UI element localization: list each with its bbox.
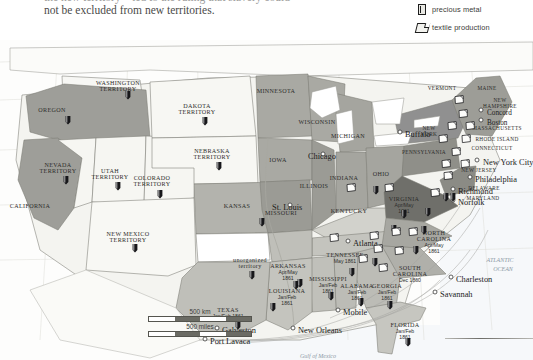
intro-line-1: the new territory—led to the ruling that…: [44, 0, 344, 4]
manufacturing-city-icon: [449, 275, 453, 279]
city-label: Charleston: [456, 275, 493, 284]
state-label: DAKOTATERRITORY: [179, 103, 216, 115]
seceded-state-name: VIRGINIA: [389, 196, 420, 202]
city-label: New Orleans: [298, 326, 342, 335]
city-label: Chicago: [308, 152, 336, 161]
state-label: MICHIGAN: [331, 133, 365, 139]
seceded-state-name: ALABAMA: [340, 283, 374, 289]
textile-production-icon: [392, 228, 400, 236]
state-label: ILLINOIS: [300, 183, 329, 189]
state-label: KANSAS: [224, 203, 251, 209]
manufacturing-city-icon: [451, 187, 455, 191]
textile-production-icon: [455, 96, 463, 104]
seceded-state-name: TENNESSEE: [326, 252, 363, 258]
textile-production-icon: [442, 160, 450, 168]
state-label: CONNECTICUT: [471, 145, 513, 151]
canada: [10, 42, 533, 76]
precious-metal-icon: [412, 4, 432, 15]
scale-bar-miles: [148, 331, 252, 337]
state-label: NEW MEXICOTERRITORY: [107, 231, 150, 243]
intro-line-2: not be excluded from new territories.: [44, 4, 344, 17]
seceded-state-name: ARKANSAS: [270, 263, 306, 269]
state-label: IOWA: [269, 157, 287, 163]
manufacturing-city-icon: [398, 130, 402, 134]
legend-label-precious-metal: precious metal: [432, 5, 481, 14]
scale-bar: 500 km 500 miles: [148, 308, 252, 338]
legend-item-precious-metal: precious metal: [412, 2, 532, 17]
scale-km-label: 500 km: [148, 308, 252, 315]
seceded-state-name: FLORIDA: [391, 322, 420, 328]
manufacturing-city-icon: [479, 118, 483, 122]
manufacturing-city-icon: [468, 175, 472, 179]
seceded-state-name: MISSISSIPPI: [309, 276, 347, 282]
city-label: Boston: [487, 119, 508, 127]
textile-production-icon: [466, 122, 474, 130]
seceded-state-date: May 1861: [334, 258, 357, 264]
city-label: New York City: [483, 158, 533, 167]
textile-production-icon: [379, 264, 387, 272]
manufacturing-city-icon: [479, 108, 483, 112]
intro-paragraph: the new territory—led to the ruling that…: [44, 0, 344, 17]
manufacturing-city-icon: [433, 290, 437, 294]
textile-production-icon: [452, 148, 460, 156]
textile-production-icon: [461, 160, 469, 168]
city-label: Richmond: [458, 187, 494, 196]
state-label: RHODE ISLAND: [475, 136, 518, 142]
scale-miles-label: 500 miles: [148, 323, 252, 330]
textile-production-icon: [330, 234, 338, 242]
textile-production-icon: [462, 135, 470, 143]
city-label: Buffalo: [405, 130, 430, 139]
textile-production-icon: [370, 232, 378, 240]
textile-production-icon: [347, 184, 355, 192]
lake-huron: [372, 98, 404, 124]
ocean-label: OCEAN: [493, 266, 514, 272]
ocean-label: Gulf of Mexico: [300, 353, 336, 359]
state-label: NEW JERSEY: [461, 167, 497, 173]
textile-production-icon: [459, 110, 467, 118]
state-label: OHIO: [373, 171, 390, 177]
indiana-area: [336, 152, 368, 212]
textile-production-icon: [431, 189, 439, 197]
state-label: NEVADATERRITORY: [40, 162, 77, 174]
state-label: PENNSYLVANIA: [402, 149, 446, 155]
seceded-state-name: LOUISIANA: [269, 288, 306, 294]
state-label: WISCONSIN: [298, 119, 335, 125]
textile-production-icon: [444, 172, 452, 180]
state-label: OREGON: [38, 107, 66, 113]
legend-item-textile-production: textile production: [412, 20, 532, 35]
state-label: VERMONT: [428, 85, 457, 91]
state-label: MINNESOTA: [257, 88, 296, 94]
state-label: KENTUCKY: [331, 208, 368, 214]
state-label: CALIFORNIA: [10, 203, 51, 209]
ocean-label: ATLANTIC: [485, 257, 514, 263]
textile-production-icon: [374, 245, 382, 253]
state-label: COLORADOTERRITORY: [134, 175, 171, 187]
textile-production-icon: [359, 255, 367, 263]
manufacturing-city-icon: [291, 326, 295, 330]
civil-war-map: WASHINGTONTERRITORYOREGONNEVADATERRITORY…: [0, 40, 533, 360]
textile-production-icon: [412, 23, 432, 33]
seceded-state-date: Dec 1860: [399, 277, 421, 283]
minnesota-area: [256, 74, 312, 138]
city-label: St. Louis: [272, 203, 302, 212]
city-label: Savannah: [440, 290, 473, 299]
map-svg: WASHINGTONTERRITORYOREGONNEVADATERRITORY…: [0, 40, 533, 360]
legend-label-textile-production: textile production: [432, 23, 490, 32]
manufacturing-city-icon: [475, 158, 479, 162]
seceded-state-name: GEORGIA: [372, 283, 402, 289]
manufacturing-city-icon: [346, 239, 350, 243]
state-label: MAINE: [477, 85, 496, 91]
city-label: Philadelphia: [475, 175, 517, 184]
state-label: WASHINGTONTERRITORY: [96, 80, 140, 92]
city-label: Mobile: [343, 308, 367, 317]
textile-production-icon: [448, 122, 456, 130]
state-label: INDIANA: [330, 175, 359, 181]
city-label: Concord: [487, 109, 512, 117]
textile-production-icon: [409, 228, 417, 236]
textile-production-icon: [385, 184, 393, 192]
textile-production-icon: [395, 247, 403, 255]
page-divider: [445, 338, 533, 339]
scale-bar-km: [148, 316, 252, 322]
state-label: NEBRASKATERRITORY: [194, 148, 231, 160]
manufacturing-city-icon: [336, 308, 340, 312]
